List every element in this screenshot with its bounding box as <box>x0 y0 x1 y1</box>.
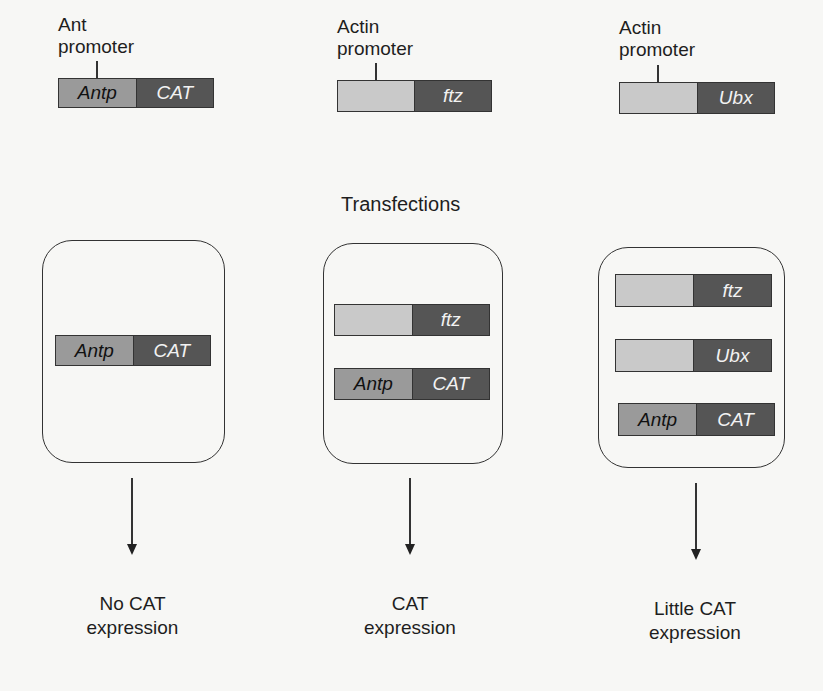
promoter-tick-2 <box>375 63 377 80</box>
result-1: No CAT expression <box>60 592 205 640</box>
promoter-label-3-line1: Actin <box>619 17 661 39</box>
gene-construct: Antp CAT <box>58 78 214 108</box>
cat-segment: CAT <box>696 404 774 435</box>
actin-promoter-segment <box>616 275 693 306</box>
ftz-segment: ftz <box>693 275 771 306</box>
cat-segment: CAT <box>133 336 211 365</box>
gene-construct: Antp CAT <box>334 368 490 400</box>
arrow-down-icon <box>127 544 137 555</box>
result-3-line1: Little CAT <box>620 597 770 621</box>
result-3-line2: expression <box>620 621 770 645</box>
ftz-segment: ftz <box>412 305 490 335</box>
antp-segment: Antp <box>56 336 133 365</box>
actin-promoter-segment <box>338 81 414 111</box>
transfections-title: Transfections <box>341 193 460 216</box>
result-2: CAT expression <box>340 592 480 640</box>
promoter-label-1-line2: promoter <box>58 36 134 58</box>
arrow-2-line <box>409 478 411 545</box>
gene-construct: ftz <box>615 274 772 307</box>
ubx-segment: Ubx <box>697 83 775 113</box>
arrow-3-line <box>695 483 697 550</box>
result-1-line1: No CAT <box>60 592 205 616</box>
result-2-line1: CAT <box>340 592 480 616</box>
result-3: Little CAT expression <box>620 597 770 645</box>
gene-construct: Antp CAT <box>55 335 211 366</box>
actin-promoter-segment <box>620 83 697 113</box>
antp-segment: Antp <box>335 369 412 399</box>
result-1-line2: expression <box>60 616 205 640</box>
gene-construct: ftz <box>337 80 492 112</box>
promoter-tick-3 <box>657 65 659 82</box>
actin-promoter-segment <box>335 305 412 335</box>
arrow-down-icon <box>405 544 415 555</box>
actin-promoter-segment <box>616 340 693 371</box>
arrow-1-line <box>131 478 133 545</box>
promoter-label-1-line1: Ant <box>58 14 87 36</box>
gene-construct: ftz <box>334 304 490 336</box>
antp-segment: Antp <box>619 404 696 435</box>
result-2-line2: expression <box>340 616 480 640</box>
cat-segment: CAT <box>412 369 490 399</box>
promoter-label-2-line2: promoter <box>337 38 413 60</box>
ftz-segment: ftz <box>414 81 491 111</box>
promoter-label-3-line2: promoter <box>619 39 695 61</box>
antp-segment: Antp <box>59 79 136 107</box>
gene-construct: Ubx <box>615 339 772 372</box>
transfected-cell-2 <box>323 243 503 464</box>
promoter-label-2-line1: Actin <box>337 16 379 38</box>
cat-segment: CAT <box>136 79 214 107</box>
ubx-segment: Ubx <box>693 340 771 371</box>
gene-construct: Antp CAT <box>618 403 775 436</box>
promoter-tick-1 <box>96 61 98 78</box>
gene-construct: Ubx <box>619 82 775 114</box>
arrow-down-icon <box>691 549 701 560</box>
